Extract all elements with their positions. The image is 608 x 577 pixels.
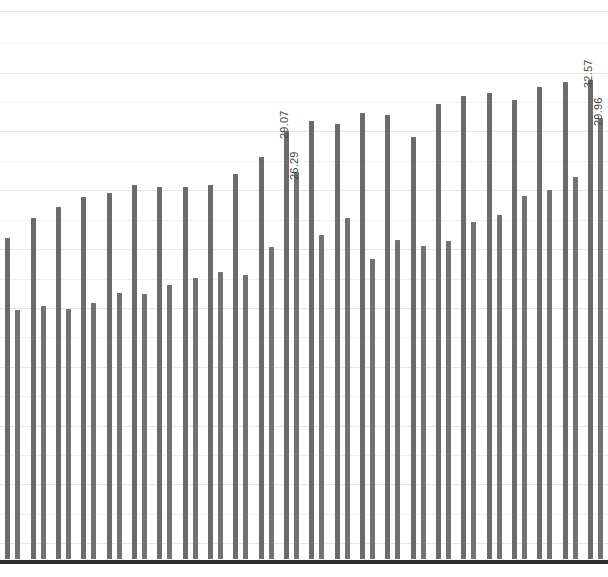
bar — [31, 218, 36, 559]
bar — [183, 187, 188, 559]
bar — [421, 246, 426, 559]
bar — [41, 306, 46, 559]
data-label: 32.57 — [582, 59, 594, 88]
bar — [395, 240, 400, 559]
bar — [167, 285, 172, 559]
bar — [218, 272, 223, 559]
bar — [294, 172, 299, 559]
bar — [208, 185, 213, 559]
bar — [233, 174, 238, 559]
gridline — [0, 43, 608, 44]
bar — [461, 96, 466, 559]
bar — [81, 197, 86, 559]
bar — [360, 113, 365, 559]
bar — [66, 309, 71, 559]
bar — [411, 137, 416, 559]
bar — [284, 131, 289, 559]
bar — [497, 215, 502, 559]
bar — [107, 193, 112, 559]
bar — [345, 218, 350, 559]
gridline — [0, 73, 608, 74]
x-axis-baseline — [0, 560, 608, 564]
bar — [132, 185, 137, 559]
bar — [319, 235, 324, 559]
bar — [259, 157, 264, 559]
bar — [243, 275, 248, 559]
bar — [157, 187, 162, 559]
bar — [142, 294, 147, 559]
bar — [471, 222, 476, 559]
bar — [309, 121, 314, 559]
bar — [537, 87, 542, 559]
bar — [512, 100, 517, 559]
bar — [573, 177, 578, 559]
bar — [5, 238, 10, 559]
gridline — [0, 11, 608, 12]
bar — [446, 241, 451, 559]
bar — [193, 278, 198, 559]
bar — [436, 104, 441, 559]
bar — [588, 80, 593, 559]
bar — [91, 303, 96, 559]
bar — [56, 207, 61, 559]
bar — [547, 190, 552, 559]
bar — [335, 124, 340, 559]
bar — [598, 118, 603, 559]
bar — [370, 259, 375, 559]
bar — [385, 115, 390, 559]
bar — [522, 196, 527, 559]
data-label: 29.07 — [278, 111, 290, 140]
plot-area: 29.0726.2932.5729.96 — [0, 0, 608, 577]
bar — [487, 93, 492, 559]
data-label: 29.96 — [592, 98, 604, 127]
bar — [15, 310, 20, 559]
bar-chart: 29.0726.2932.5729.96 — [0, 0, 608, 577]
bar — [563, 82, 568, 559]
bar — [117, 293, 122, 559]
bar — [269, 247, 274, 559]
data-label: 26.29 — [288, 152, 300, 181]
